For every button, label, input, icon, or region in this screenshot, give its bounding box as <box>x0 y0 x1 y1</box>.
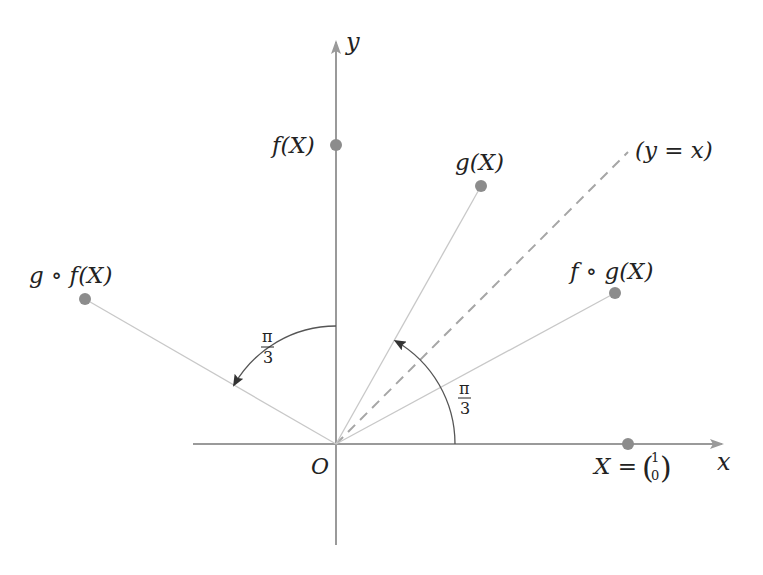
label-g-x: g(X) <box>455 149 504 175</box>
rotation-diagram: y x O f(X) g(X) f ∘ g(X) g ∘ f(X) (y = x… <box>0 0 763 575</box>
label-f-x: f(X) <box>270 132 315 158</box>
point-x <box>622 438 634 450</box>
angle-arc-from-x <box>396 341 456 444</box>
diagonal-line <box>336 152 628 444</box>
angle-label-x-den: 3 <box>460 399 470 418</box>
angle-label-y-num: π <box>262 327 273 346</box>
label-g-of-f-x: g ∘ f(X) <box>29 262 112 288</box>
point-f-x <box>330 139 342 151</box>
point-f-of-g-x <box>609 287 621 299</box>
label-f-of-g-x: f ∘ g(X) <box>568 258 653 284</box>
label-x-vector-bottom: 0 <box>651 468 659 483</box>
angle-label-x-num: π <box>459 379 470 398</box>
point-g-of-f-x <box>79 293 91 305</box>
label-x-prefix: X = <box>592 453 637 479</box>
point-g-x <box>475 180 487 192</box>
angle-label-y-den: 3 <box>263 348 273 367</box>
x-axis-label: x <box>717 448 731 476</box>
ray-g-of-f-x <box>85 299 336 444</box>
y-axis-label: y <box>345 28 360 56</box>
label-x-paren-close: ) <box>660 450 672 485</box>
label-x-vector-top: 1 <box>651 450 659 465</box>
diagonal-label: (y = x) <box>635 137 713 163</box>
origin-label: O <box>311 454 329 479</box>
angle-arc-from-y <box>234 326 336 385</box>
